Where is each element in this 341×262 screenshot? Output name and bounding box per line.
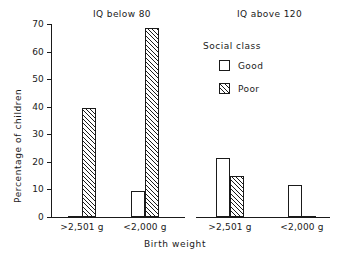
bar-good-panel1-cat1 bbox=[68, 216, 82, 217]
x-tick-label-panel1-cat2: <2,000 g bbox=[113, 223, 177, 232]
x-tick-label-panel2-cat1: >2,501 g bbox=[198, 223, 262, 232]
panel-title-left: IQ below 80 bbox=[93, 10, 151, 19]
y-tick-20 bbox=[47, 162, 51, 163]
x-axis-title: Birth weight bbox=[144, 240, 206, 249]
open-square-icon bbox=[219, 60, 230, 71]
y-tick-label-60: 60 bbox=[22, 48, 44, 57]
y-tick-70 bbox=[47, 24, 51, 25]
y-tick-50 bbox=[47, 79, 51, 80]
y-axis-line bbox=[51, 24, 52, 217]
panel-title-right: IQ above 120 bbox=[237, 10, 302, 19]
legend-label-poor: Poor bbox=[238, 85, 259, 94]
y-tick-label-70: 70 bbox=[22, 20, 44, 29]
bar-poor-panel2-cat2 bbox=[302, 216, 316, 217]
bar-good-panel2-cat2 bbox=[288, 185, 302, 217]
x-tick-label-panel2-cat2: <2,000 g bbox=[270, 223, 334, 232]
bar-good-panel1-cat2 bbox=[131, 191, 145, 217]
y-tick-label-20: 20 bbox=[22, 158, 44, 167]
legend-label-good: Good bbox=[238, 62, 263, 71]
x-axis-line-left-panel bbox=[51, 217, 185, 218]
y-tick-30 bbox=[47, 134, 51, 135]
y-tick-40 bbox=[47, 107, 51, 108]
y-tick-label-30: 30 bbox=[22, 130, 44, 139]
y-tick-60 bbox=[47, 52, 51, 53]
bar-poor-panel2-cat1 bbox=[230, 176, 244, 217]
y-tick-label-0: 0 bbox=[22, 213, 44, 222]
bar-poor-panel1-cat2 bbox=[145, 28, 159, 217]
legend-title: Social class bbox=[203, 42, 261, 51]
y-tick-label-40: 40 bbox=[22, 103, 44, 112]
y-tick-10 bbox=[47, 189, 51, 190]
chart-figure: IQ below 80 IQ above 120 Percentage of c… bbox=[0, 0, 341, 262]
hatched-square-icon bbox=[219, 83, 230, 94]
x-axis-line-right-panel bbox=[196, 217, 330, 218]
y-tick-label-10: 10 bbox=[22, 185, 44, 194]
bar-poor-panel1-cat1 bbox=[82, 108, 96, 217]
x-tick-label-panel1-cat1: >2,501 g bbox=[50, 223, 114, 232]
y-tick-label-50: 50 bbox=[22, 75, 44, 84]
bar-good-panel2-cat1 bbox=[216, 158, 230, 217]
